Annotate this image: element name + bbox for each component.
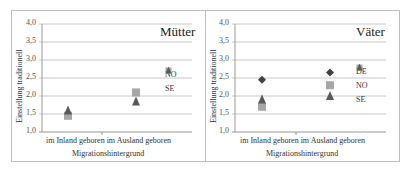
chart-title: Väter	[356, 24, 385, 40]
legend-item-se: SE	[356, 92, 368, 106]
chart-panel-muetter: 1,01,52,02,53,03,54,0MütterEinstellung t…	[11, 10, 206, 162]
chart-title: Mütter	[160, 24, 195, 40]
x-category-labels: im Inland geboren im Ausland geboren	[46, 136, 171, 145]
triangle-marker	[64, 105, 72, 114]
triangle-marker	[166, 67, 172, 74]
square-marker	[132, 88, 140, 96]
triangle-marker	[132, 96, 140, 105]
triangle-marker	[357, 64, 363, 71]
legend: NOSE	[165, 67, 177, 95]
y-axis-label: Einstellung traditionell	[209, 49, 218, 123]
legend-item-se: SE	[165, 81, 177, 95]
legend: DENOSE	[356, 64, 368, 106]
diamond-marker	[326, 69, 334, 77]
y-axis-label: Einstellung traditionell	[15, 49, 24, 123]
x-category-labels: im Inland geboren im Ausland geboren	[240, 136, 365, 145]
chart-panel-vaeter: 1,01,52,02,53,03,54,0VäterEinstellung tr…	[205, 10, 400, 162]
square-marker	[326, 81, 334, 89]
x-axis-label: Migrationshintergrund	[72, 149, 144, 158]
x-axis-label: Migrationshintergrund	[266, 149, 338, 158]
legend-item-no: NO	[356, 78, 368, 92]
diamond-marker	[258, 76, 266, 84]
square-marker	[258, 103, 266, 111]
